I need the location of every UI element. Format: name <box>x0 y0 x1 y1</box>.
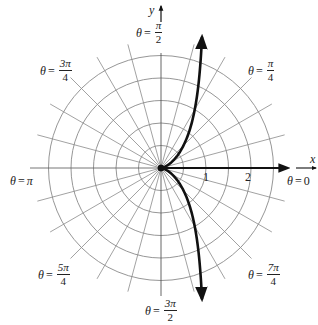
grid-radial-line <box>97 171 159 278</box>
grid-radial-line <box>128 44 160 164</box>
y-axis-label: y <box>149 3 154 18</box>
grid-radial-line <box>165 135 285 167</box>
grid-radial-line <box>50 170 157 232</box>
tick-label-1: 1 <box>203 170 209 185</box>
grid-radial-line <box>37 135 157 167</box>
grid-radial-line <box>164 170 271 232</box>
grid-radial-line <box>162 172 194 292</box>
angle-label-3pi-over-4: θ= 3π4 <box>40 58 72 83</box>
tick-label-2: 2 <box>245 170 251 185</box>
grid-radial-line <box>164 104 271 166</box>
grid-radial-line <box>37 169 157 201</box>
angle-label-zero: θ=0 <box>287 175 310 187</box>
angle-label-7pi-over-4: θ= 7π4 <box>248 262 280 287</box>
grid-radial-line <box>97 57 159 164</box>
grid-radial-line <box>128 172 160 292</box>
grid-radial-line <box>162 44 194 164</box>
grid-radial-line <box>50 104 157 166</box>
angle-label-5pi-over-4: θ= 5π4 <box>38 262 70 287</box>
angle-label-pi: θ=π <box>10 175 33 187</box>
angle-label-pi-over-2: θ= π2 <box>136 20 162 45</box>
x-axis-label: x <box>310 152 315 167</box>
angle-label-3pi-over-2: θ= 3π2 <box>145 298 177 323</box>
angle-label-pi-over-4: θ= π4 <box>248 58 274 83</box>
grid-radial-line <box>165 169 285 201</box>
